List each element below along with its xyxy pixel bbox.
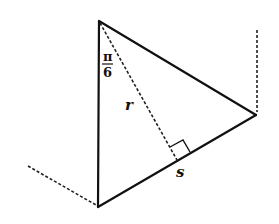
triangle-diagram: π 6 r s	[0, 0, 279, 224]
top-right-side	[99, 21, 256, 115]
altitude-label-r: r	[125, 96, 134, 114]
angle-numerator: π	[103, 49, 113, 64]
left-side	[98, 21, 99, 207]
left-diagonal-dashed-line	[28, 166, 96, 205]
side-label-s: s	[176, 163, 185, 181]
angle-denominator: 6	[103, 65, 112, 80]
base-side-s	[98, 115, 256, 207]
right-angle-marker	[170, 140, 190, 152]
